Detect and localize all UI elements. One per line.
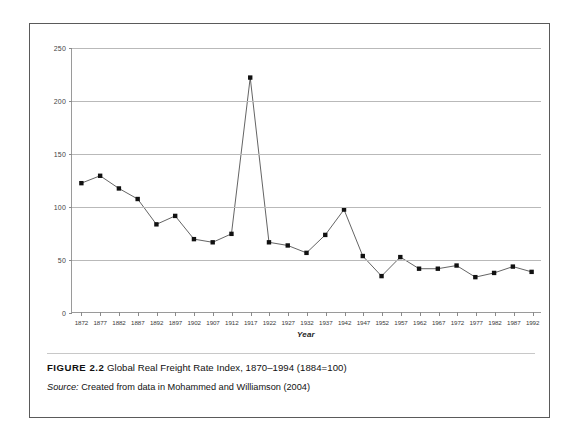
x-axis-tick xyxy=(345,312,346,316)
data-point-marker xyxy=(135,197,139,201)
y-axis-tick xyxy=(69,48,72,49)
series-line xyxy=(81,78,531,278)
gridline xyxy=(72,260,541,261)
data-point-marker xyxy=(211,240,215,244)
x-axis-tick xyxy=(307,312,308,316)
x-axis-tick-label: 1917 xyxy=(244,319,257,326)
x-axis-tick-label: 1972 xyxy=(451,319,464,326)
x-axis-tick-label: 1872 xyxy=(75,319,88,326)
x-axis-tick xyxy=(232,312,233,316)
x-axis-tick-label: 1907 xyxy=(206,319,219,326)
data-point-marker xyxy=(342,207,346,211)
x-axis-tick xyxy=(495,312,496,316)
x-axis-tick-label: 1887 xyxy=(131,319,144,326)
x-axis-tick xyxy=(251,312,252,316)
data-point-marker xyxy=(361,254,365,258)
x-axis-tick-label: 1897 xyxy=(169,319,182,326)
y-axis-tick xyxy=(69,207,72,208)
data-point-marker xyxy=(473,275,477,279)
x-axis-tick xyxy=(439,312,440,316)
caption-divider xyxy=(47,353,535,354)
data-point-marker xyxy=(492,271,496,275)
x-axis-tick xyxy=(100,312,101,316)
x-axis-tick-label: 1967 xyxy=(432,319,445,326)
x-axis-tick-label: 1942 xyxy=(338,319,351,326)
data-point-marker xyxy=(323,233,327,237)
x-axis-tick xyxy=(175,312,176,316)
figure-frame: 0501001502002501872187718821887189218971… xyxy=(29,23,550,418)
gridline xyxy=(72,101,541,102)
x-axis-tick xyxy=(514,312,515,316)
x-axis-tick-label: 1947 xyxy=(357,319,370,326)
y-axis-tick xyxy=(69,154,72,155)
x-axis-tick xyxy=(476,312,477,316)
x-axis-title: Year xyxy=(71,330,541,339)
data-point-marker xyxy=(229,232,233,236)
figure-number: FIGURE 2.2 xyxy=(47,362,104,373)
x-axis-tick xyxy=(401,312,402,316)
data-point-marker xyxy=(511,264,515,268)
x-axis-tick-label: 1902 xyxy=(188,319,201,326)
x-axis-tick xyxy=(363,312,364,316)
y-axis-tick xyxy=(69,313,72,314)
x-axis-tick-label: 1892 xyxy=(150,319,163,326)
x-axis-tick xyxy=(157,312,158,316)
x-axis-tick xyxy=(457,312,458,316)
x-axis-tick-label: 1962 xyxy=(413,319,426,326)
data-point-marker xyxy=(117,186,121,190)
data-point-marker xyxy=(529,270,533,274)
data-point-marker xyxy=(79,181,83,185)
freight-rate-line-series xyxy=(72,48,541,312)
x-axis-tick-label: 1912 xyxy=(225,319,238,326)
data-point-marker xyxy=(454,263,458,267)
x-axis-tick xyxy=(382,312,383,316)
y-axis-tick-label: 50 xyxy=(58,257,66,264)
x-axis-tick xyxy=(420,312,421,316)
x-axis-tick-label: 1982 xyxy=(488,319,501,326)
x-axis-tick xyxy=(138,312,139,316)
x-axis-tick-label: 1952 xyxy=(376,319,389,326)
x-axis-tick xyxy=(81,312,82,316)
x-axis-tick xyxy=(288,312,289,316)
plot-area: 0501001502002501872187718821887189218971… xyxy=(71,48,541,313)
x-axis-tick xyxy=(533,312,534,316)
x-axis-tick xyxy=(269,312,270,316)
x-axis-tick-label: 1877 xyxy=(94,319,107,326)
figure-source: Source: Created from data in Mohammed an… xyxy=(47,382,535,394)
data-point-marker xyxy=(154,222,158,226)
data-point-marker xyxy=(417,267,421,271)
y-axis-tick-label: 150 xyxy=(54,151,66,158)
y-axis-tick xyxy=(69,101,72,102)
x-axis-tick-label: 1992 xyxy=(526,319,539,326)
source-text: Created from data in Mohammed and Willia… xyxy=(81,382,310,392)
data-point-marker xyxy=(173,214,177,218)
data-point-marker xyxy=(304,251,308,255)
y-axis-tick-label: 100 xyxy=(54,204,66,211)
data-point-marker xyxy=(436,267,440,271)
data-point-marker xyxy=(286,243,290,247)
x-axis-tick-label: 1932 xyxy=(300,319,313,326)
x-axis-tick xyxy=(119,312,120,316)
caption-block: FIGURE 2.2 Global Real Freight Rate Inde… xyxy=(47,353,535,394)
x-axis-tick xyxy=(194,312,195,316)
y-axis-tick-label: 200 xyxy=(54,98,66,105)
x-axis-tick xyxy=(326,312,327,316)
data-point-marker xyxy=(248,75,252,79)
data-point-marker xyxy=(192,237,196,241)
data-point-marker xyxy=(379,274,383,278)
y-axis-tick xyxy=(69,260,72,261)
data-point-marker xyxy=(267,240,271,244)
gridline xyxy=(72,48,541,49)
gridline xyxy=(72,207,541,208)
x-axis-tick-label: 1957 xyxy=(394,319,407,326)
source-label: Source: xyxy=(47,382,79,392)
y-axis-tick-label: 0 xyxy=(62,310,66,317)
x-axis-tick-label: 1882 xyxy=(112,319,125,326)
data-point-marker xyxy=(98,174,102,178)
figure-caption-text: Global Real Freight Rate Index, 1870–199… xyxy=(107,362,347,373)
x-axis-tick-label: 1937 xyxy=(319,319,332,326)
figure-caption: FIGURE 2.2 Global Real Freight Rate Inde… xyxy=(47,362,535,375)
chart-area: 0501001502002501872187718821887189218971… xyxy=(30,24,551,344)
gridline xyxy=(72,154,541,155)
y-axis-tick-label: 250 xyxy=(54,45,66,52)
